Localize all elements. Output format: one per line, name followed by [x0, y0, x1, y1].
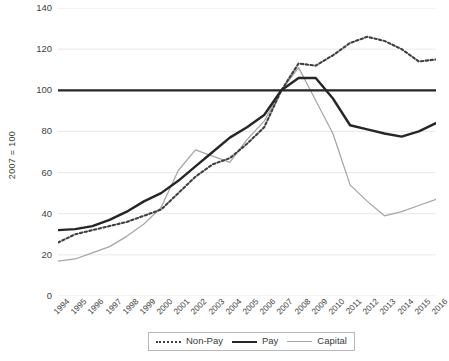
- legend-label: Non-Pay: [186, 336, 223, 346]
- dotted-line-swatch: [156, 337, 181, 345]
- legend-label: Pay: [262, 336, 278, 346]
- y-axis-tick-label: 80: [8, 127, 52, 137]
- plot-area: [58, 8, 436, 296]
- legend-item-non-pay[interactable]: Non-Pay: [156, 336, 223, 346]
- series-lines: [58, 37, 436, 261]
- gridlines: [58, 8, 436, 296]
- y-axis-tick-label: 0: [8, 291, 52, 301]
- chart-legend: Non-PayPayCapital: [148, 332, 355, 351]
- y-axis-tick-label: 100: [8, 86, 52, 96]
- legend-label: Capital: [317, 336, 347, 346]
- series-line-capital: [58, 68, 436, 261]
- y-axis-tick-label: 140: [8, 3, 52, 13]
- legend-item-capital[interactable]: Capital: [287, 336, 347, 346]
- y-axis-tick-labels: 020406080100120140: [0, 0, 52, 300]
- series-line-pay: [58, 78, 436, 230]
- thin-solid-line-swatch: [287, 337, 312, 345]
- thick-solid-line-swatch: [232, 337, 257, 345]
- y-axis-tick-label: 40: [8, 209, 52, 219]
- legend-item-pay[interactable]: Pay: [232, 336, 278, 346]
- y-axis-tick-label: 120: [8, 44, 52, 54]
- y-axis-tick-label: 60: [8, 168, 52, 178]
- y-axis-tick-label: 20: [8, 250, 52, 260]
